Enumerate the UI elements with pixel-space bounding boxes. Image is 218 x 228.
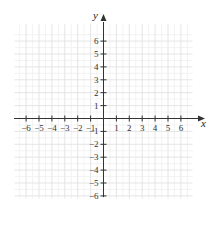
y-tick-label: 4 — [94, 62, 99, 72]
y-tick-label: −4 — [89, 165, 99, 175]
x-tick-label: −6 — [21, 123, 31, 133]
y-tick-label: −3 — [89, 152, 99, 162]
y-tick-label: 6 — [94, 36, 99, 46]
x-tick-label: −5 — [34, 123, 44, 133]
x-axis-label: x — [200, 117, 206, 129]
y-tick-label: 2 — [94, 88, 99, 98]
y-tick-label: −6 — [89, 191, 99, 201]
y-tick-label: −5 — [89, 178, 99, 188]
coordinate-plane: −6−5−4−3−2−1123456 −6−5−4−3−2−1123456 x … — [0, 0, 218, 228]
y-axis-arrow-icon — [101, 14, 107, 21]
y-axis-label: y — [92, 9, 98, 21]
x-tick-label: −4 — [47, 123, 57, 133]
x-tick-label: −3 — [60, 123, 70, 133]
x-tick-label: 1 — [114, 123, 119, 133]
x-tick-label: 4 — [153, 123, 158, 133]
x-tick-label: 2 — [127, 123, 132, 133]
x-tick-label: 5 — [166, 123, 171, 133]
x-tick-label: −2 — [73, 123, 83, 133]
y-tick-label: −1 — [89, 126, 99, 136]
y-tick-label: −2 — [89, 139, 99, 149]
x-tick-label: 6 — [179, 123, 184, 133]
x-tick-label: 3 — [140, 123, 145, 133]
y-tick-label: 1 — [94, 101, 99, 111]
y-tick-label: 5 — [94, 49, 99, 59]
y-tick-label: 3 — [94, 75, 99, 85]
